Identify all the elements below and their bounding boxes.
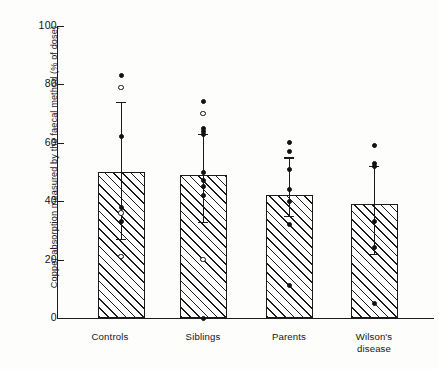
y-tick-40 [57, 201, 64, 202]
data-point-0-f2 [119, 205, 124, 210]
y-tick-80 [57, 84, 64, 85]
data-point-0-f0 [119, 73, 124, 78]
data-point-0-o0 [118, 85, 124, 91]
y-tick-label-80: 80 [13, 77, 57, 89]
y-tick-100 [57, 26, 64, 27]
error-bar-cap-0-lower [116, 239, 126, 240]
error-bar-cap-0-upper [116, 102, 126, 103]
data-point-2-f0 [287, 140, 292, 145]
data-point-2-f1 [287, 149, 292, 154]
data-point-0-o1 [118, 210, 124, 216]
data-point-2-f4 [287, 199, 292, 204]
data-point-2-f6 [287, 283, 292, 288]
data-point-2-f2 [287, 167, 292, 172]
data-point-0-f3 [119, 219, 124, 224]
y-axis-line [57, 26, 58, 319]
x-label-wilsons-line1: Wilson's [337, 331, 411, 343]
x-label-wilsons-line2: disease [337, 343, 411, 355]
x-label-siblings: Siblings [166, 331, 240, 343]
data-point-2-f3 [287, 187, 292, 192]
x-label-siblings-line1: Siblings [166, 331, 240, 343]
x-axis-line [57, 318, 434, 319]
data-point-3-f2 [372, 164, 377, 169]
data-point-1-f0 [201, 99, 206, 104]
error-bar-cap-3-lower [369, 254, 379, 255]
y-tick-label-0: 0 [13, 311, 57, 323]
error-bar-cap-2-lower [284, 216, 294, 217]
x-label-wilsons-disease: Wilson's disease [337, 331, 411, 354]
y-tick-label-100: 100 [13, 19, 57, 31]
data-point-3-f5 [372, 301, 377, 306]
data-point-3-f4 [372, 245, 377, 250]
figure-canvas: Copper absorption measured by the faecal… [0, 0, 439, 369]
data-point-1-o0 [200, 111, 206, 117]
data-point-3-f0 [372, 143, 377, 148]
data-point-1-f7 [201, 193, 206, 198]
x-label-controls: Controls [73, 331, 147, 343]
x-label-controls-line1: Controls [73, 331, 147, 343]
y-tick-label-60: 60 [13, 136, 57, 148]
error-bar-cap-1-lower [198, 222, 208, 223]
x-label-parents: Parents [252, 331, 326, 343]
y-tick-label-20: 20 [13, 253, 57, 265]
data-point-0-f1 [119, 134, 124, 139]
error-bar-3 [374, 166, 375, 254]
y-tick-0 [57, 318, 64, 319]
data-point-3-f3 [372, 219, 377, 224]
error-bar-cap-2-upper [284, 157, 294, 158]
data-point-1-f5 [201, 178, 206, 183]
y-tick-20 [57, 260, 64, 261]
y-axis-ticks: 100 80 60 40 20 0 [0, 0, 57, 369]
x-label-parents-line1: Parents [252, 331, 326, 343]
data-point-1-f8 [201, 316, 206, 321]
data-point-1-f3 [201, 132, 206, 137]
data-point-1-f6 [201, 184, 206, 189]
data-point-1-f4 [201, 170, 206, 175]
data-point-2-f5 [287, 222, 292, 227]
y-tick-label-40: 40 [13, 194, 57, 206]
y-tick-60 [57, 143, 64, 144]
